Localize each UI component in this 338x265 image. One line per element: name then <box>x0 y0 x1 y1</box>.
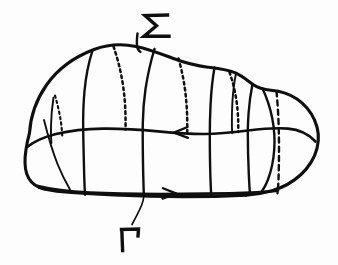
hidden-edge-1 <box>55 96 62 136</box>
meridian-solid-2 <box>83 51 92 195</box>
sigma-leader-tick <box>137 34 141 52</box>
equator-curve <box>27 128 315 147</box>
sigma-label-text: Σ <box>142 12 160 38</box>
figure-root: Σ Γ <box>0 0 338 265</box>
hidden-edge-5-long <box>277 92 280 194</box>
gamma-label-text: Γ <box>120 224 138 250</box>
hidden-edge-2 <box>114 47 126 130</box>
hidden-edge-3 <box>179 59 188 133</box>
meridian-solid-4 <box>210 68 215 196</box>
surface-diagram-svg <box>0 0 338 265</box>
meridian-solid-6 <box>260 89 275 194</box>
meridian-solid-1-lower <box>44 120 70 190</box>
gamma-leader-line <box>132 197 144 225</box>
right-end-cap-curve <box>246 120 318 195</box>
gamma-boundary-curve <box>38 186 278 194</box>
meridian-solid-3 <box>143 49 155 195</box>
meridian-solid-5 <box>248 84 253 194</box>
